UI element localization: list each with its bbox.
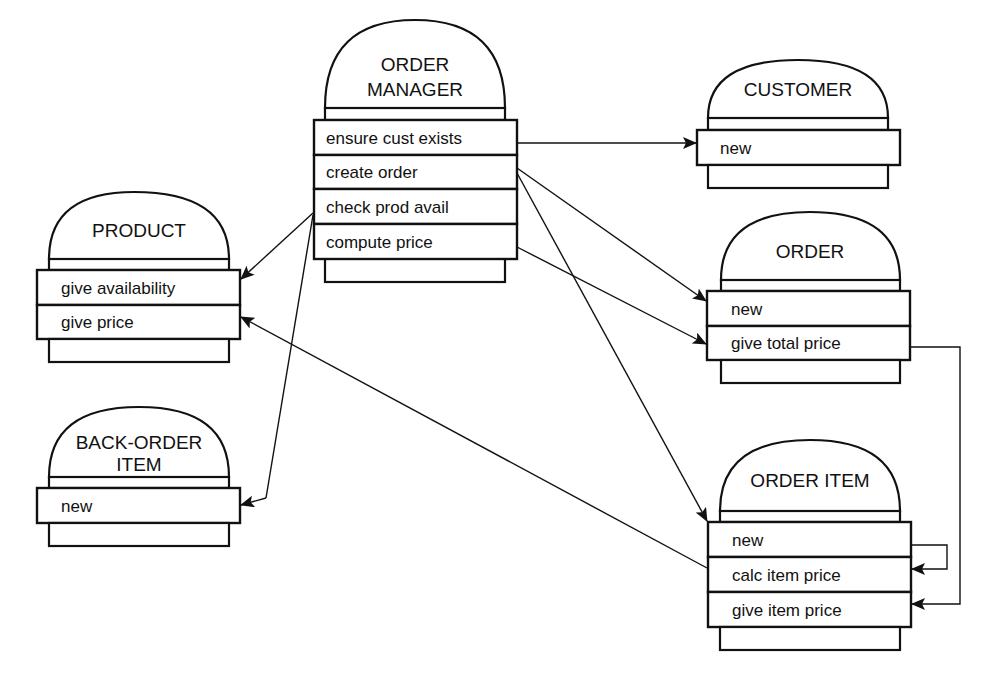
method-label: give total price <box>731 334 841 353</box>
method-order-item-new[interactable]: new <box>708 522 911 557</box>
back-order-item-title-line-2: ITEM <box>116 454 161 475</box>
order-manager-title-line-2: MANAGER <box>367 79 463 100</box>
order-item-upper-band <box>720 511 900 522</box>
method-back-order-item-new[interactable]: new <box>37 488 240 523</box>
order-title: ORDER <box>776 241 845 262</box>
customer-title: CUSTOMER <box>744 79 852 100</box>
method-label: create order <box>326 163 418 182</box>
product-base <box>49 339 229 362</box>
arrow-order-item-new-to-calc-item-price <box>911 545 947 569</box>
back-order-item-title-line-1: BACK-ORDER <box>76 432 203 453</box>
order-item-title: ORDER ITEM <box>750 470 869 491</box>
product-title: PRODUCT <box>92 220 186 241</box>
method-label: new <box>732 531 764 550</box>
method-calc-item-price[interactable]: calc item price <box>708 557 911 592</box>
back-order-item-upper-band <box>49 477 229 488</box>
object-back-order-item[interactable]: BACK-ORDER ITEM new <box>37 407 240 546</box>
arrow-calc-item-price-to-give-price <box>241 317 707 568</box>
object-product[interactable]: PRODUCT give availability give price <box>37 192 240 362</box>
arrow-check-prod-avail-to-back-order-new <box>241 498 266 505</box>
arrow-compute-price-to-give-total-price <box>517 247 706 344</box>
object-order-manager[interactable]: ORDER MANAGER ensure cust exists create … <box>314 20 517 282</box>
order-upper-band <box>721 280 900 291</box>
customer-base <box>708 165 888 188</box>
order-item-base <box>720 627 900 650</box>
method-give-availability[interactable]: give availability <box>37 270 240 305</box>
method-label: new <box>61 497 93 516</box>
customer-upper-band <box>708 118 888 130</box>
method-label: calc item price <box>732 566 841 585</box>
method-check-prod-avail[interactable]: check prod avail <box>314 189 517 224</box>
method-label: compute price <box>326 233 433 252</box>
product-upper-band <box>49 259 229 270</box>
method-label: new <box>731 300 763 319</box>
method-compute-price[interactable]: compute price <box>314 224 517 259</box>
object-message-diagram: ORDER MANAGER ensure cust exists create … <box>0 0 999 684</box>
order-manager-upper-band <box>325 108 505 120</box>
method-label: give price <box>61 313 134 332</box>
method-give-price[interactable]: give price <box>37 305 240 339</box>
method-label: new <box>720 139 752 158</box>
arrow-create-order-to-order-item-new <box>517 173 707 521</box>
order-base <box>721 360 900 383</box>
method-label: check prod avail <box>326 198 449 217</box>
method-create-order[interactable]: create order <box>314 155 517 189</box>
order-manager-base <box>325 258 505 282</box>
method-label: give availability <box>61 279 176 298</box>
arrow-create-order-to-order-new <box>517 168 706 301</box>
method-give-item-price[interactable]: give item price <box>708 592 911 627</box>
object-order-item[interactable]: ORDER ITEM new calc item price give item… <box>708 440 911 650</box>
method-customer-new[interactable]: new <box>697 130 900 165</box>
arrow-check-prod-avail-to-give-availability <box>241 213 313 279</box>
method-label: ensure cust exists <box>326 129 462 148</box>
method-give-total-price[interactable]: give total price <box>707 326 910 360</box>
method-label: give item price <box>732 601 842 620</box>
back-order-item-base <box>49 523 229 546</box>
order-manager-title-line-1: ORDER <box>381 54 450 75</box>
method-ensure-cust-exists[interactable]: ensure cust exists <box>314 120 517 155</box>
object-order[interactable]: ORDER new give total price <box>707 212 910 383</box>
object-customer[interactable]: CUSTOMER new <box>697 60 900 188</box>
arrow-give-total-price-to-give-item-price <box>910 347 960 604</box>
method-order-new[interactable]: new <box>707 291 910 326</box>
arrow-check-prod-avail-to-back-order-line <box>266 215 313 498</box>
